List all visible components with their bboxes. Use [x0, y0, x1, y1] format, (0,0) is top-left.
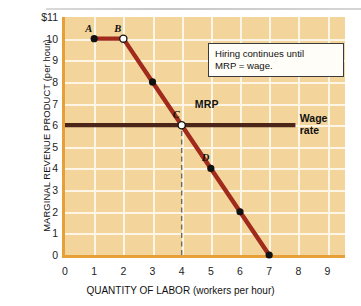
data-point-marker	[236, 208, 243, 215]
data-point-marker-b	[120, 35, 127, 42]
data-point-marker	[266, 251, 273, 258]
data-point-marker	[149, 78, 156, 85]
data-point-label-c: C	[173, 109, 180, 120]
hiring-rule-callout: Hiring continues until MRP = wage.	[208, 43, 344, 77]
data-point-marker-c	[178, 122, 185, 129]
figure-canvas: 012345678910$11 MARGINAL REVENUE PRODUCT…	[0, 0, 361, 306]
callout-line-2: MRP = wage.	[215, 60, 337, 72]
mrp-series-label: MRP	[195, 98, 219, 110]
data-point-marker-d	[207, 165, 214, 172]
data-point-marker-a	[91, 35, 98, 42]
data-point-label-d: D	[202, 152, 210, 163]
data-point-label-b: B	[114, 23, 121, 34]
wage-rate-label-line2: rate	[300, 125, 328, 137]
callout-line-1: Hiring continues until	[215, 48, 337, 60]
data-point-label-a: A	[85, 23, 92, 34]
wage-rate-series-label: Wage rate	[300, 113, 328, 136]
